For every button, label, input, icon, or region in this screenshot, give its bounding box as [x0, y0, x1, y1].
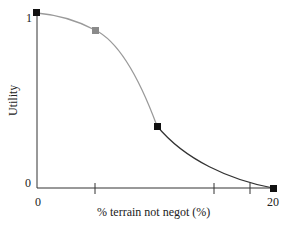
data-point-marker	[270, 185, 277, 192]
y-axis-title: Utility	[6, 85, 21, 116]
data-point-marker	[33, 9, 40, 16]
x-axis-title: % terrain not negot (%)	[97, 206, 210, 218]
x-tick-label-right: 20	[267, 196, 279, 208]
chart-canvas	[0, 0, 289, 227]
data-point-marker	[154, 123, 161, 130]
data-point-marker	[92, 27, 99, 34]
y-tick-label-top: 1	[26, 12, 32, 24]
y-tick-label-bottom: 0	[25, 177, 31, 189]
curve-segment-lower	[157, 126, 273, 188]
x-tick-label-left: 0	[35, 196, 41, 208]
